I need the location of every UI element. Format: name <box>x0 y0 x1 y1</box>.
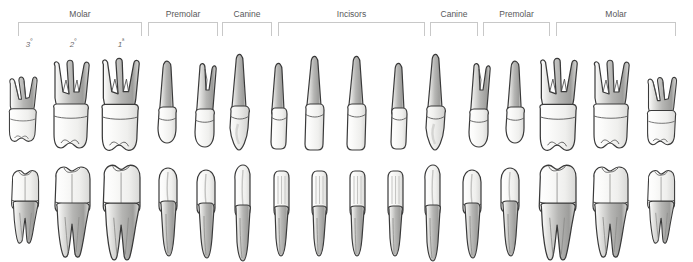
tooth-second-molar[interactable] <box>588 58 634 156</box>
tooth-class-bracket <box>222 22 272 36</box>
dental-chart: MolarPremolarCanineIncisorsCaninePremola… <box>0 0 693 262</box>
tooth-class-bracket <box>430 22 478 36</box>
tooth-central-incisor[interactable] <box>342 54 370 158</box>
tooth-second-premolar[interactable] <box>496 164 524 262</box>
molar-ordinal-marker: º <box>74 38 76 44</box>
tooth-second-premolar[interactable] <box>152 58 182 154</box>
tooth-second-molar[interactable] <box>50 162 96 262</box>
tooth-class-bracket <box>483 22 550 36</box>
tooth-first-premolar[interactable] <box>462 60 494 156</box>
tooth-second-molar[interactable] <box>588 162 634 262</box>
tooth-canine[interactable] <box>224 52 254 158</box>
tooth-first-premolar[interactable] <box>192 166 220 262</box>
tooth-canine[interactable] <box>420 52 450 158</box>
tooth-second-premolar[interactable] <box>154 164 182 262</box>
tooth-class-bracket <box>148 22 218 36</box>
tooth-class-label: Canine <box>430 8 478 20</box>
tooth-class-bracket <box>18 22 142 36</box>
tooth-lateral-incisor[interactable] <box>266 60 290 158</box>
tooth-first-molar[interactable] <box>98 160 146 262</box>
tooth-first-molar[interactable] <box>96 56 144 159</box>
tooth-third-molar[interactable] <box>6 70 40 147</box>
molar-ordinal-marker: º <box>30 38 32 44</box>
lower-arch-row <box>0 160 693 260</box>
tooth-first-molar[interactable] <box>534 160 582 262</box>
tooth-first-premolar[interactable] <box>458 166 486 262</box>
tooth-central-incisor[interactable] <box>344 166 368 262</box>
tooth-class-label: Molar <box>556 8 676 20</box>
tooth-class-label: Premolar <box>483 8 550 20</box>
tooth-first-premolar[interactable] <box>188 60 220 156</box>
molar-ordinal-marker: ª <box>122 38 124 44</box>
tooth-lateral-incisor[interactable] <box>386 60 410 158</box>
tooth-class-label: Premolar <box>148 8 218 20</box>
tooth-first-molar[interactable] <box>534 56 582 159</box>
upper-arch-row <box>0 48 693 153</box>
tooth-third-molar[interactable] <box>8 166 42 249</box>
tooth-canine[interactable] <box>228 162 256 262</box>
tooth-class-bracket <box>556 22 676 36</box>
tooth-lateral-incisor[interactable] <box>268 166 292 262</box>
tooth-second-premolar[interactable] <box>500 58 530 154</box>
tooth-central-incisor[interactable] <box>306 166 330 262</box>
tooth-class-label: Canine <box>222 8 272 20</box>
tooth-class-bracket <box>278 22 425 36</box>
tooth-central-incisor[interactable] <box>300 54 328 158</box>
tooth-canine[interactable] <box>418 162 446 262</box>
tooth-class-label: Molar <box>18 8 142 20</box>
tooth-second-molar[interactable] <box>48 58 94 156</box>
tooth-class-label: Incisors <box>278 8 425 20</box>
tooth-class-bracket-row: MolarPremolarCanineIncisorsCaninePremola… <box>0 0 693 48</box>
tooth-third-molar[interactable] <box>644 70 680 151</box>
tooth-lateral-incisor[interactable] <box>382 166 406 262</box>
tooth-third-molar[interactable] <box>644 166 678 249</box>
